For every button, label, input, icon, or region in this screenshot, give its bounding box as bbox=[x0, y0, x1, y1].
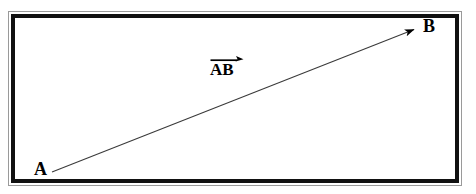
point-label-b: B bbox=[423, 17, 435, 35]
vector-overline-arrow-icon bbox=[210, 54, 244, 63]
diagram-canvas: A B AB bbox=[0, 0, 476, 194]
diagram-field bbox=[15, 18, 455, 179]
point-label-a: A bbox=[34, 160, 47, 178]
vector-label-ab: AB bbox=[210, 54, 234, 78]
